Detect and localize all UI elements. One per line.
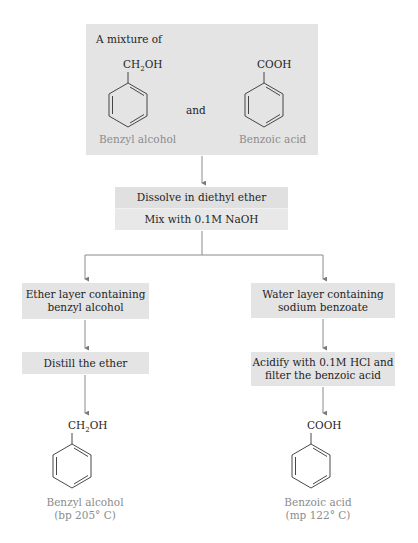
mixture-heading: A mixture of (96, 33, 162, 46)
mixture-box: A mixture of CH2OH Benzyl alcohol and CO… (86, 24, 318, 155)
acidify-box: Acidify with 0.1M HCl and filter the ben… (251, 352, 395, 386)
mix-naoh-step: Mix with 0.1M NaOH (115, 208, 288, 230)
product-benzyl-alcohol-substituent: CH2OH (68, 419, 107, 434)
acidify-line1: Acidify with 0.1M HCl and (252, 356, 393, 369)
distill-step: Distill the ether (44, 357, 128, 370)
benzene-ring-icon (242, 72, 286, 132)
ether-layer-line1: Ether layer containing (26, 288, 146, 301)
product-benzyl-alcohol-bp: (bp 205° C) (35, 509, 135, 522)
benzoic-acid-label: Benzoic acid (239, 133, 306, 146)
product-benzyl-alcohol-caption: Benzyl alcohol (bp 205° C) (35, 496, 135, 522)
product-benzoic-acid-substituent: COOH (307, 419, 341, 431)
product-benzoic-acid-name: Benzoic acid (268, 496, 368, 509)
dissolve-step: Dissolve in diethyl ether (115, 187, 288, 208)
acidify-line2: filter the benzoic acid (265, 369, 381, 382)
benzyl-alcohol-label: Benzyl alcohol (99, 133, 176, 146)
and-conjunction: and (186, 104, 206, 117)
benzene-ring-icon (289, 433, 333, 493)
dissolve-mix-box: Dissolve in diethyl ether Mix with 0.1M … (115, 187, 288, 230)
product-benzoic-acid-caption: Benzoic acid (mp 122° C) (268, 496, 368, 522)
benzoic-acid-substituent: COOH (257, 58, 291, 71)
water-layer-box: Water layer containing sodium benzoate (251, 283, 395, 318)
product-benzyl-alcohol-name: Benzyl alcohol (35, 496, 135, 509)
product-benzoic-acid-mp: (mp 122° C) (268, 509, 368, 522)
distill-box: Distill the ether (22, 352, 149, 374)
ether-layer-line2: benzyl alcohol (47, 301, 123, 314)
benzene-ring-icon (50, 433, 94, 493)
ether-layer-box: Ether layer containing benzyl alcohol (22, 283, 149, 319)
water-layer-line2: sodium benzoate (278, 301, 368, 314)
benzene-ring-icon (106, 72, 150, 132)
water-layer-line1: Water layer containing (262, 288, 383, 301)
